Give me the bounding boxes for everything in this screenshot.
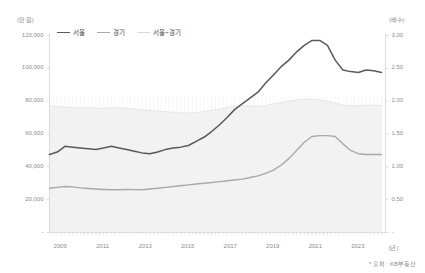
legend-label-seoul: 서울 <box>73 27 85 37</box>
left-axis-unit-label: (만 원) <box>17 15 34 24</box>
y2-axis-tick-label: 1.50 <box>392 130 425 136</box>
x-axis-tick-label: 2017 <box>210 243 250 249</box>
y-axis-tick-label: 100,000 <box>4 64 44 70</box>
legend-item-gyeonggi[interactable]: 경기 <box>97 27 125 37</box>
x-axis-tick-label: 2023 <box>338 243 378 249</box>
legend-label-ratio: 서울÷경기 <box>153 27 181 37</box>
legend-label-gyeonggi: 경기 <box>113 27 125 37</box>
x-axis-tick-label: 2015 <box>168 243 208 249</box>
y2-axis-tick-label: 0.50 <box>392 196 425 202</box>
y-axis-tick-label: - <box>4 229 44 235</box>
y-axis-tick-label: 40,000 <box>4 163 44 169</box>
y2-axis-tick-label: 2.50 <box>392 64 425 70</box>
source-note: * 출처 : KB부동산 <box>369 259 416 268</box>
chart-figure: (만 원) (배수) 서울 경기 서울÷경기 -20,00040,00060,0… <box>0 0 425 273</box>
x-axis-tick-label: 2019 <box>253 243 293 249</box>
y2-axis-tick-label: - <box>392 229 425 235</box>
legend-item-seoul[interactable]: 서울 <box>57 27 85 37</box>
legend-swatch-seoul-icon <box>57 32 70 33</box>
legend-swatch-gyeonggi-icon <box>97 32 110 33</box>
right-axis-unit-label: (배수) <box>389 15 404 24</box>
y-axis-tick-label: 120,000 <box>4 32 44 38</box>
x-axis-tick-label: 2013 <box>125 243 165 249</box>
x-axis-tick-label: 2011 <box>83 243 123 249</box>
chart-legend: 서울 경기 서울÷경기 <box>57 27 181 37</box>
y2-axis-tick-label: 3.00 <box>392 32 425 38</box>
legend-swatch-ratio-icon <box>137 32 150 33</box>
legend-item-ratio[interactable]: 서울÷경기 <box>137 27 181 37</box>
y-axis-tick-label: 20,000 <box>4 196 44 202</box>
chart-plot-area <box>0 0 425 273</box>
y2-axis-tick-label: 1.00 <box>392 163 425 169</box>
x-axis-tick-label: 2009 <box>40 243 80 249</box>
x-axis-unit-label: (년) <box>374 243 414 252</box>
y2-axis-tick-label: 2.00 <box>392 97 425 103</box>
x-axis-tick-label: 2021 <box>295 243 335 249</box>
y-axis-tick-label: 60,000 <box>4 130 44 136</box>
y-axis-tick-label: 80,000 <box>4 97 44 103</box>
